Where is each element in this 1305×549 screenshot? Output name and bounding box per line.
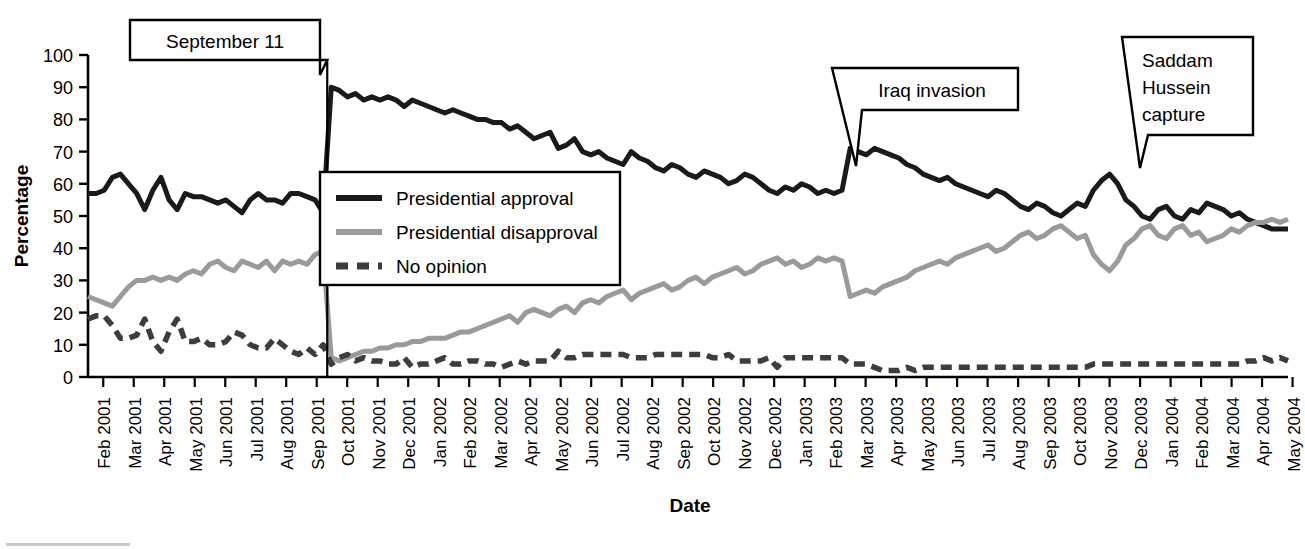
x-tick-label: Oct 2003 [1071,397,1090,466]
annotation-group: September 11Iraq invasionSaddamHusseinca… [130,20,1253,168]
y-tick-label: 30 [53,271,73,291]
x-tick-label: Jul 2001 [248,397,267,461]
chart-figure: 0102030405060708090100Feb 2001Mar 2001Ap… [0,0,1305,549]
x-tick-label: Nov 2003 [1102,397,1121,470]
x-tick-label: Dec 2001 [400,397,419,470]
legend-box[interactable]: Presidential approvalPresidential disapp… [320,172,620,285]
annotation-saddam-hussein-capture-text: capture [1142,104,1205,125]
x-tick-label: Aug 2003 [1010,397,1029,470]
x-tick-label: Mar 2002 [492,397,511,469]
x-tick-label: Dec 2002 [766,397,785,470]
x-tick-label: Feb 2001 [95,397,114,469]
x-tick-label: Oct 2002 [705,397,724,466]
annotation-september-11-text: September 11 [166,31,284,52]
x-tick-label: Feb 2004 [1193,397,1212,469]
x-tick-label: Mar 2001 [126,397,145,469]
series-group [88,87,1288,370]
x-tick-label: Mar 2003 [858,397,877,469]
x-tick-label: Aug 2002 [644,397,663,470]
x-tick-label: Nov 2002 [736,397,755,470]
x-tick-label: Jun 2001 [217,397,236,467]
annotation-iraq-invasion-text: Iraq invasion [878,80,986,101]
y-tick-label: 60 [53,175,73,195]
x-tick-label: May 2001 [187,397,206,472]
presidential-approval-chart: 0102030405060708090100Feb 2001Mar 2001Ap… [0,0,1305,549]
page-footer-rule [6,543,130,546]
y-tick-label: 90 [53,78,73,98]
x-tick-label: May 2002 [553,397,572,472]
x-tick-label: Jan 2003 [797,397,816,467]
annotation-saddam-hussein-capture-text: Saddam [1142,50,1213,71]
y-tick-label: 40 [53,239,73,259]
y-tick-label: 0 [63,368,73,388]
x-tick-label: Apr 2003 [888,397,907,466]
y-tick-label: 100 [43,46,73,66]
series-line-2 [88,219,1288,361]
legend-label-1: Presidential approval [396,188,573,209]
y-tick-label: 50 [53,207,73,227]
x-tick-label: Apr 2004 [1254,397,1273,466]
x-tick-label: May 2003 [919,397,938,472]
x-tick-label: Jun 2002 [583,397,602,467]
x-tick-label: Mar 2004 [1224,397,1243,469]
y-axis-title: Percentage [11,165,32,267]
x-tick-label: Oct 2001 [339,397,358,466]
y-tick-label: 10 [53,336,73,356]
x-tick-label: Aug 2001 [278,397,297,470]
x-tick-label: Jul 2003 [980,397,999,461]
y-tick-label: 70 [53,143,73,163]
x-tick-label: Jan 2002 [431,397,450,467]
annotation-saddam-hussein-capture-text: Hussein [1142,77,1211,98]
annotation-saddam-hussein-capture: SaddamHusseincapture [1122,37,1253,168]
x-tick-label: Sep 2001 [309,397,328,470]
x-tick-label: Jun 2003 [949,397,968,467]
y-tick-label: 80 [53,110,73,130]
x-tick-label: Dec 2003 [1132,397,1151,470]
x-axis-title: Date [669,495,710,516]
x-tick-label: Feb 2002 [461,397,480,469]
x-tick-label: Nov 2001 [370,397,389,470]
series-line-1 [88,87,1288,229]
x-tick-label: Sep 2003 [1041,397,1060,470]
legend-label-3: No opinion [396,256,487,277]
series-line-3 [88,316,1288,371]
x-tick-label: Jan 2004 [1163,397,1182,467]
x-tick-label: Apr 2002 [522,397,541,466]
annotation-september-11: September 11 [130,20,327,75]
x-tick-label: May 2004 [1285,397,1304,472]
axes-group: 0102030405060708090100Feb 2001Mar 2001Ap… [43,46,1304,472]
x-tick-label: Apr 2001 [156,397,175,466]
x-tick-label: Jul 2002 [614,397,633,461]
legend-label-2: Presidential disapproval [396,222,598,243]
y-tick-label: 20 [53,304,73,324]
x-tick-label: Feb 2003 [827,397,846,469]
x-tick-label: Sep 2002 [675,397,694,470]
